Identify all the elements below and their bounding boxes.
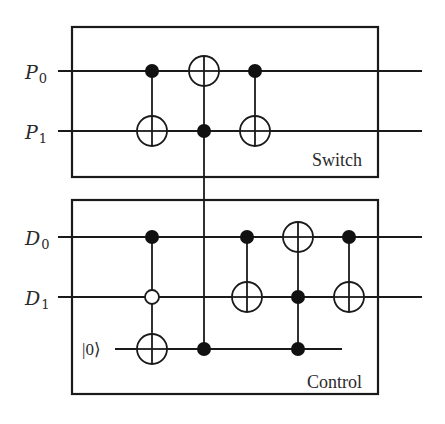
control-dot-icon bbox=[197, 124, 211, 138]
xor-target-icon bbox=[240, 116, 270, 146]
control-dot-icon bbox=[145, 230, 159, 244]
label-d1: D1 bbox=[24, 287, 50, 312]
control-dot-icon bbox=[291, 342, 305, 356]
cnot-gate-d0-d1-a bbox=[232, 230, 262, 312]
xor-target-icon bbox=[137, 116, 167, 146]
control-dot-icon bbox=[197, 342, 211, 356]
label-d0: D0 bbox=[24, 227, 50, 252]
quantum-circuit-diagram: P0 P1 D0 D1 |0⟩ Switch Control bbox=[0, 0, 445, 424]
label-ancilla-ket: |0⟩ bbox=[82, 340, 101, 359]
control-dot-icon bbox=[342, 230, 356, 244]
control-dot-icon bbox=[145, 64, 159, 78]
control-block-label: Control bbox=[307, 372, 362, 392]
xor-target-icon bbox=[232, 282, 262, 312]
control-dot-icon bbox=[240, 230, 254, 244]
toffoli-gate-d1-ancilla-d0 bbox=[283, 222, 313, 356]
label-p0: P0 bbox=[24, 61, 47, 86]
cnot-gate-p0-p1-a bbox=[137, 64, 167, 146]
cnot-gate-d0-d1-b bbox=[334, 230, 364, 312]
xor-target-icon bbox=[334, 282, 364, 312]
label-p1: P1 bbox=[24, 121, 47, 146]
xor-target-icon bbox=[283, 222, 313, 252]
control-dot-icon bbox=[248, 64, 262, 78]
switch-block-label: Switch bbox=[312, 150, 362, 170]
cnot-gate-p1-p0 bbox=[189, 56, 219, 356]
xor-target-icon bbox=[189, 56, 219, 86]
open-control-dot-icon bbox=[145, 290, 159, 304]
xor-target-icon bbox=[137, 334, 167, 364]
cnot-gate-p0-p1-b bbox=[240, 64, 270, 146]
control-dot-icon bbox=[291, 290, 305, 304]
